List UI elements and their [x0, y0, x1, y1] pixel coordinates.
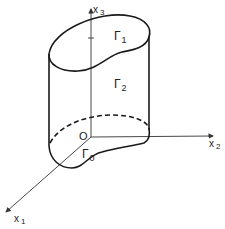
x2-axis-label: x2: [209, 138, 221, 151]
origin-label: O: [79, 130, 88, 142]
gamma-0-label: Γ0: [82, 147, 95, 163]
x2-axis: [91, 136, 213, 137]
x1-axis-label: x1: [14, 213, 26, 226]
cylinder-diagram: x3 x2 x1 O Γ1 Γ2 Γ0: [0, 0, 225, 229]
top-boundary-curve: [49, 15, 150, 71]
gamma-2-label: Γ2: [114, 77, 127, 93]
x3-axis-label: x3: [93, 4, 105, 17]
bottom-boundary-visible: [49, 128, 149, 168]
bottom-boundary-hidden: [50, 115, 149, 143]
gamma-1-label: Γ1: [114, 29, 127, 45]
